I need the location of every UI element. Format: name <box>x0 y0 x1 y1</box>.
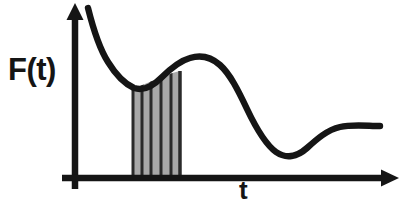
shaded-region-fill <box>133 60 180 178</box>
shaded-region <box>133 55 180 180</box>
y-axis-label: F(t) <box>8 54 56 85</box>
x-axis-label: t <box>239 177 248 203</box>
y-axis-arrow-icon <box>67 3 84 20</box>
x-axis-arrow-icon <box>381 170 399 187</box>
plot-canvas <box>0 0 410 209</box>
axes <box>62 3 399 189</box>
figure-root: F(t) t <box>0 0 410 209</box>
